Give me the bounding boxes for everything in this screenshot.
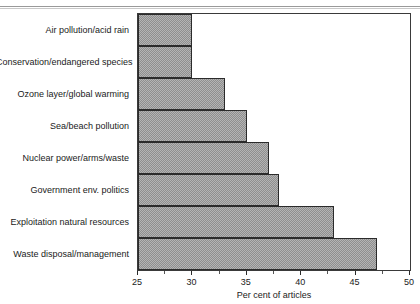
y-axis-category-labels: Air pollution/acid rainConservation/enda…	[0, 14, 133, 271]
x-tick	[191, 271, 192, 275]
x-tick	[246, 271, 247, 275]
x-tick	[137, 271, 138, 275]
x-tick-label: 45	[350, 277, 360, 287]
category-label: Ozone layer/global warming	[0, 89, 129, 99]
x-tick-label: 40	[295, 277, 305, 287]
x-tick	[355, 271, 356, 275]
bar	[138, 110, 247, 142]
chart-page: Air pollution/acid rainConservation/enda…	[0, 0, 420, 304]
page-top-rule	[0, 6, 420, 7]
x-minor-tick	[219, 271, 220, 274]
x-tick-label: 50	[404, 277, 414, 287]
category-label: Exploitation natural resources	[0, 217, 129, 227]
x-minor-tick	[273, 271, 274, 274]
x-minor-tick	[327, 271, 328, 274]
category-label: Air pollution/acid rain	[0, 25, 129, 35]
x-minor-tick	[164, 271, 165, 274]
x-tick-label: 35	[241, 277, 251, 287]
page-top-rule-secondary	[0, 8, 420, 9]
category-label: Waste disposal/management	[0, 249, 129, 259]
bar	[138, 206, 334, 238]
bar	[138, 46, 192, 78]
category-label: Conservation/endangered species	[0, 57, 129, 67]
bar	[138, 142, 269, 174]
x-minor-tick	[382, 271, 383, 274]
x-axis-title: Per cent of articles	[137, 290, 411, 300]
bar	[138, 14, 192, 46]
bar	[138, 238, 377, 270]
x-tick-label: 30	[186, 277, 196, 287]
x-tick	[409, 271, 410, 275]
x-tick	[300, 271, 301, 275]
category-label: Government env. politics	[0, 185, 129, 195]
category-label: Sea/beach pollution	[0, 121, 129, 131]
category-label: Nuclear power/arms/waste	[0, 153, 129, 163]
bar	[138, 78, 225, 110]
x-axis-tick-labels: 253035404550	[0, 277, 420, 289]
bar	[138, 174, 279, 206]
x-tick-label: 25	[132, 277, 142, 287]
bar-series	[138, 14, 410, 270]
